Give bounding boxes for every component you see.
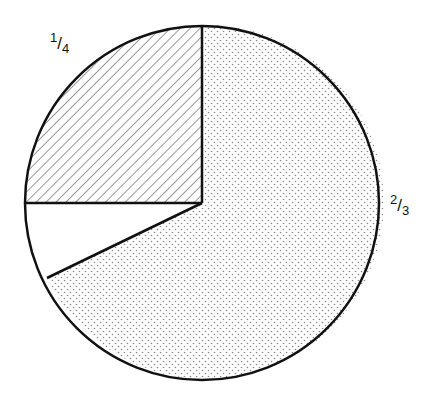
label-two-thirds: 2/3	[390, 192, 409, 218]
label-numerator: 2	[390, 192, 397, 207]
label-denominator: 4	[62, 41, 69, 56]
label-numerator: 1	[50, 30, 57, 45]
label-one-quarter: 1/4	[50, 30, 69, 56]
pie-chart	[0, 0, 432, 402]
label-denominator: 3	[402, 203, 409, 218]
